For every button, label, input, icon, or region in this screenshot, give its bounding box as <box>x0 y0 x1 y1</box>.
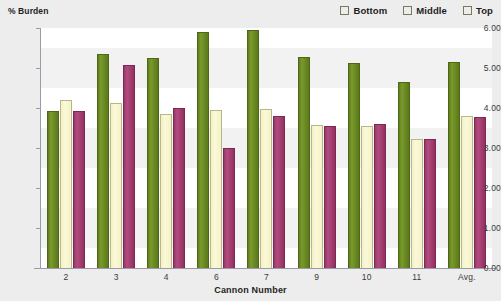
chart-legend: Bottom Middle Top <box>340 5 493 16</box>
bar-group <box>342 28 392 268</box>
bar-middle-7[interactable] <box>260 109 272 268</box>
legend-swatch-top-icon <box>463 6 472 15</box>
bar-middle-4[interactable] <box>160 114 172 268</box>
bar-bottom-9[interactable] <box>298 57 310 268</box>
y-tick-mark <box>36 108 41 109</box>
bar-top-10[interactable] <box>374 124 386 268</box>
y-tick-mark <box>36 268 41 269</box>
x-tick-label: 11 <box>412 272 421 282</box>
legend-swatch-middle-icon <box>403 6 412 15</box>
bar-group <box>91 28 141 268</box>
y-tick-label: 4.00 <box>467 103 501 113</box>
bar-bottom-7[interactable] <box>247 30 259 268</box>
bar-bottom-2[interactable] <box>47 111 59 268</box>
bar-group <box>392 28 442 268</box>
bar-top-9[interactable] <box>324 126 336 268</box>
legend-item-middle[interactable]: Middle <box>403 5 447 16</box>
y-tick-mark <box>36 188 41 189</box>
y-axis-title: % Burden <box>8 6 48 16</box>
bar-bottom-11[interactable] <box>398 82 410 268</box>
legend-label-middle: Middle <box>416 5 447 16</box>
bar-bottom-6[interactable] <box>197 32 209 268</box>
legend-label-top: Top <box>476 5 493 16</box>
legend-item-bottom[interactable]: Bottom <box>340 5 387 16</box>
bar-top-6[interactable] <box>223 148 235 268</box>
x-tick-label: 6 <box>214 272 219 282</box>
y-tick-label: 3.00 <box>467 143 501 153</box>
bar-middle-2[interactable] <box>60 100 72 268</box>
bar-middle-6[interactable] <box>210 110 222 268</box>
legend-label-bottom: Bottom <box>353 5 387 16</box>
bar-top-3[interactable] <box>123 65 135 268</box>
y-tick-label: 1.00 <box>467 223 501 233</box>
bar-bottom-4[interactable] <box>147 58 159 268</box>
bar-group <box>41 28 91 268</box>
x-tick-label: 10 <box>362 272 372 282</box>
y-tick-label: 6.00 <box>467 23 501 33</box>
x-tick-label: Avg. <box>458 272 476 282</box>
x-axis-line <box>34 268 496 269</box>
bar-middle-3[interactable] <box>110 103 122 268</box>
bar-chart: % Burden Bottom Middle Top 0.001.002.003… <box>0 0 501 301</box>
bar-bottom-10[interactable] <box>348 63 360 268</box>
y-tick-label: 2.00 <box>467 183 501 193</box>
x-tick-label: 4 <box>164 272 169 282</box>
y-tick-label: 5.00 <box>467 63 501 73</box>
bar-group <box>241 28 291 268</box>
legend-item-top[interactable]: Top <box>463 5 493 16</box>
bar-bottom-3[interactable] <box>97 54 109 268</box>
x-tick-label: 9 <box>314 272 319 282</box>
legend-swatch-bottom-icon <box>340 6 349 15</box>
bar-top-11[interactable] <box>424 139 436 268</box>
bar-middle-11[interactable] <box>411 139 423 268</box>
bar-middle-10[interactable] <box>361 126 373 268</box>
y-tick-mark <box>36 148 41 149</box>
y-tick-mark <box>36 28 41 29</box>
bar-top-4[interactable] <box>173 108 185 268</box>
bar-top-2[interactable] <box>73 111 85 268</box>
y-tick-mark <box>36 68 41 69</box>
x-axis-title: Cannon Number <box>0 285 501 295</box>
bar-middle-9[interactable] <box>311 125 323 268</box>
bar-top-7[interactable] <box>273 116 285 268</box>
bar-bottom-Avg.[interactable] <box>448 62 460 268</box>
x-tick-label: 3 <box>114 272 119 282</box>
x-tick-label: 2 <box>64 272 69 282</box>
bar-group <box>141 28 191 268</box>
bar-group <box>292 28 342 268</box>
y-tick-mark <box>36 228 41 229</box>
plot-area <box>41 28 492 268</box>
bar-group <box>191 28 241 268</box>
x-tick-label: 7 <box>264 272 269 282</box>
